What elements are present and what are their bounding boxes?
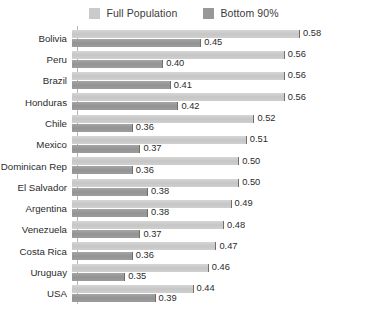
bar-pair: 0.560.41 xyxy=(72,71,368,92)
bar-row-bottom: 0.42 xyxy=(72,102,200,110)
bar-value-full: 0.48 xyxy=(224,221,245,230)
bar-pair: 0.480.37 xyxy=(72,220,368,241)
bar-value-bottom: 0.36 xyxy=(133,251,154,260)
bar-value-full: 0.56 xyxy=(285,93,306,102)
bar-rows: Bolivia0.580.45Peru0.560.40Brazil0.560.4… xyxy=(0,28,368,305)
country-group: Dominican Rep0.500.36 xyxy=(0,156,368,177)
bar-bottom xyxy=(72,81,171,89)
bar-row-bottom: 0.36 xyxy=(72,252,154,260)
bar-value-full: 0.56 xyxy=(285,71,306,80)
bar-pair: 0.560.40 xyxy=(72,49,368,70)
bar-row-bottom: 0.45 xyxy=(72,39,222,47)
bar-full xyxy=(72,157,239,165)
bar-value-bottom: 0.37 xyxy=(140,144,161,153)
legend-label-bottom-90: Bottom 90% xyxy=(220,7,278,19)
bar-full xyxy=(72,30,300,38)
country-label: Costa Rica xyxy=(0,247,72,257)
bar-pair: 0.500.36 xyxy=(72,156,368,177)
country-group: USA0.440.39 xyxy=(0,284,368,305)
bar-row-bottom: 0.41 xyxy=(72,81,192,89)
bar-value-full: 0.52 xyxy=(254,114,275,123)
bar-row-full: 0.52 xyxy=(72,115,276,123)
legend-entry-bottom-90: Bottom 90% xyxy=(203,7,278,19)
bar-bottom xyxy=(72,102,178,110)
country-label: El Salvador xyxy=(0,183,72,193)
country-label: Peru xyxy=(0,55,72,65)
bar-value-bottom: 0.35 xyxy=(125,272,146,281)
country-group: Peru0.560.40 xyxy=(0,49,368,70)
bar-value-bottom: 0.36 xyxy=(133,166,154,175)
legend-label-full-population: Full Population xyxy=(106,7,177,19)
bar-row-bottom: 0.36 xyxy=(72,166,154,174)
bar-value-bottom: 0.38 xyxy=(148,208,169,217)
country-label: Mexico xyxy=(0,140,72,150)
legend-swatch-full-population xyxy=(89,8,100,19)
bar-row-full: 0.56 xyxy=(72,72,306,80)
bar-value-bottom: 0.39 xyxy=(156,294,177,303)
bar-full xyxy=(72,221,224,229)
bar-row-bottom: 0.35 xyxy=(72,273,146,281)
bar-bottom xyxy=(72,252,133,260)
plot-area: Bolivia0.580.45Peru0.560.40Brazil0.560.4… xyxy=(0,26,368,312)
bar-pair: 0.520.36 xyxy=(72,113,368,134)
bar-row-full: 0.48 xyxy=(72,221,245,229)
bar-value-full: 0.47 xyxy=(216,242,237,251)
country-group: Costa Rica0.470.36 xyxy=(0,241,368,262)
bar-pair: 0.510.37 xyxy=(72,134,368,155)
bar-value-bottom: 0.40 xyxy=(163,59,184,68)
country-group: El Salvador0.500.38 xyxy=(0,177,368,198)
bar-value-full: 0.50 xyxy=(239,157,260,166)
bar-bottom xyxy=(72,209,148,217)
bar-value-full: 0.50 xyxy=(239,178,260,187)
legend-entry-full-population: Full Population xyxy=(89,7,177,19)
bar-pair: 0.560.42 xyxy=(72,92,368,113)
bar-value-full: 0.58 xyxy=(300,29,321,38)
country-group: Chile0.520.36 xyxy=(0,113,368,134)
country-group: Bolivia0.580.45 xyxy=(0,28,368,49)
country-label: USA xyxy=(0,289,72,299)
country-label: Argentina xyxy=(0,204,72,214)
country-label: Honduras xyxy=(0,98,72,108)
bar-value-full: 0.46 xyxy=(209,263,230,272)
country-group: Mexico0.510.37 xyxy=(0,134,368,155)
legend-swatch-bottom-90 xyxy=(203,8,214,19)
country-group: Venezuela0.480.37 xyxy=(0,220,368,241)
bar-row-bottom: 0.39 xyxy=(72,294,177,302)
bar-value-bottom: 0.42 xyxy=(178,102,199,111)
country-label: Venezuela xyxy=(0,225,72,235)
bar-pair: 0.470.36 xyxy=(72,241,368,262)
bar-bottom xyxy=(72,124,133,132)
bar-bottom xyxy=(72,166,133,174)
bar-pair: 0.490.38 xyxy=(72,198,368,219)
bar-bottom xyxy=(72,60,163,68)
chart-legend: Full Population Bottom 90% xyxy=(0,4,368,22)
bar-bottom xyxy=(72,188,148,196)
bar-value-bottom: 0.36 xyxy=(133,123,154,132)
bar-row-bottom: 0.36 xyxy=(72,124,154,132)
country-label: Uruguay xyxy=(0,268,72,278)
bar-full xyxy=(72,93,285,101)
bar-value-bottom: 0.38 xyxy=(148,187,169,196)
bar-bottom xyxy=(72,294,156,302)
bar-row-full: 0.50 xyxy=(72,157,260,165)
country-label: Chile xyxy=(0,119,72,129)
bar-bottom xyxy=(72,145,140,153)
bar-full xyxy=(72,72,285,80)
country-label: Brazil xyxy=(0,76,72,86)
bar-value-bottom: 0.41 xyxy=(171,81,192,90)
bar-row-full: 0.58 xyxy=(72,30,321,38)
bar-row-bottom: 0.38 xyxy=(72,188,169,196)
bar-pair: 0.440.39 xyxy=(72,284,368,305)
bar-bottom xyxy=(72,230,140,238)
bar-row-bottom: 0.37 xyxy=(72,230,162,238)
bar-row-full: 0.51 xyxy=(72,136,268,144)
bar-row-full: 0.56 xyxy=(72,51,306,59)
grouped-bar-chart: Full Population Bottom 90% Bolivia0.580.… xyxy=(0,0,368,315)
country-group: Brazil0.560.41 xyxy=(0,71,368,92)
country-group: Uruguay0.460.35 xyxy=(0,262,368,283)
country-group: Argentina0.490.38 xyxy=(0,198,368,219)
country-label: Bolivia xyxy=(0,34,72,44)
bar-pair: 0.580.45 xyxy=(72,28,368,49)
bar-value-bottom: 0.45 xyxy=(201,38,222,47)
bar-row-bottom: 0.38 xyxy=(72,209,169,217)
